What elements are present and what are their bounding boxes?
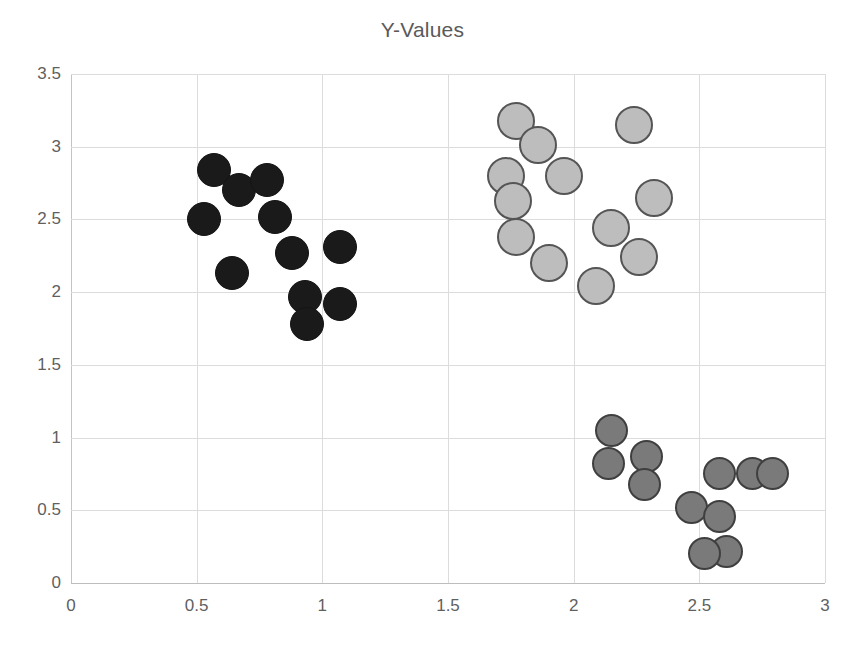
data-point [688,537,721,570]
y-axis-line [71,74,72,583]
data-point [595,414,628,447]
data-point [703,500,736,533]
data-point [323,287,357,321]
data-point [275,236,309,270]
x-axis-tick-label: 2 [544,596,604,616]
gridline-vertical [197,74,198,583]
data-point [592,209,630,247]
gridline-horizontal [71,438,825,439]
x-axis-tick-label: 3 [795,596,845,616]
data-point [620,238,658,276]
data-point [323,230,357,264]
x-axis-tick-label: 2.5 [669,596,729,616]
data-point [494,182,532,220]
x-axis-tick-label: 0.5 [167,596,227,616]
gridline-horizontal [71,292,825,293]
data-point [497,218,535,256]
scatter-chart: Y-Values 00.511.522.533.5 00.511.522.53 [0,0,845,655]
y-axis-tick-label: 3 [9,137,61,157]
gridline-horizontal [71,74,825,75]
data-point [530,244,568,282]
data-point [756,457,789,490]
plot-area [71,74,825,583]
y-axis-tick-label: 0 [9,573,61,593]
gridline-horizontal [71,219,825,220]
data-point [615,106,653,144]
y-axis-tick-label: 1.5 [9,355,61,375]
y-axis-tick-label: 1 [9,428,61,448]
data-point [290,307,324,341]
gridline-vertical [825,74,826,583]
x-axis-tick-label: 1.5 [418,596,478,616]
data-point [215,256,249,290]
y-axis-tick-label: 2.5 [9,209,61,229]
data-point [258,200,292,234]
y-axis-tick-label: 2 [9,282,61,302]
data-point [577,267,615,305]
y-axis-tick-label: 3.5 [9,64,61,84]
y-axis-tick-label: 0.5 [9,500,61,520]
data-point [703,457,736,490]
gridline-horizontal [71,365,825,366]
data-point [628,468,661,501]
data-point [592,447,625,480]
x-axis-tick-label: 1 [292,596,352,616]
data-point [635,179,673,217]
chart-title: Y-Values [0,18,845,42]
gridline-vertical [448,74,449,583]
x-axis-line [71,583,825,584]
data-point [250,163,284,197]
x-axis-tick-label: 0 [41,596,101,616]
gridline-horizontal [71,147,825,148]
data-point [187,202,221,236]
data-point [519,126,557,164]
gridline-vertical [574,74,575,583]
data-point [545,157,583,195]
